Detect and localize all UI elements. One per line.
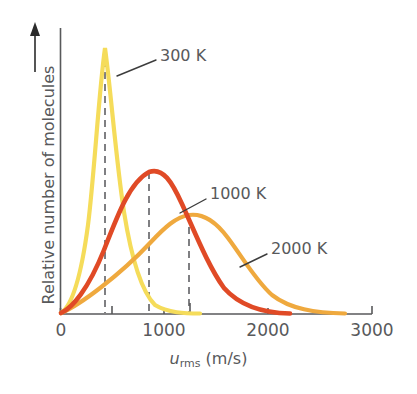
x-tick-label-3000: 3000 xyxy=(342,322,402,339)
y-axis-direction-arrow xyxy=(30,22,40,72)
series-label-1000k: 1000 K xyxy=(210,186,266,202)
x-axis-title-unit: (m/s) xyxy=(206,349,248,368)
series-label-300k: 300 K xyxy=(160,48,206,64)
x-tick-label-2000: 2000 xyxy=(238,322,298,339)
x-axis-title: urms (m/s) xyxy=(0,351,417,367)
x-axis-title-symbol: u xyxy=(170,349,180,368)
annotation-leader-lines xyxy=(117,60,267,267)
x-tick-label-0: 0 xyxy=(46,322,76,339)
curve-300k xyxy=(61,48,200,314)
y-axis-title: Relative number of molecules xyxy=(41,40,57,330)
curve-2000k xyxy=(61,215,345,314)
maxwell-boltzmann-distribution-chart: Relative number of molecules 0 1000 2000… xyxy=(0,0,417,394)
series-label-2000k: 2000 K xyxy=(271,241,327,257)
x-axis-title-subscript: rms xyxy=(180,357,201,370)
leader-300k xyxy=(117,60,156,76)
x-tick-label-1000: 1000 xyxy=(134,322,194,339)
